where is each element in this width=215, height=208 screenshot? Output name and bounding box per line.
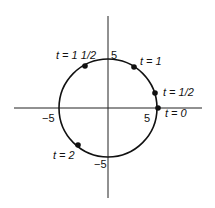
- x-tick-pos5: 5: [144, 112, 150, 124]
- label-t-one-half: t = 1 1/2: [56, 49, 96, 61]
- point-t1: [131, 64, 137, 70]
- diagram-canvas: 5 −5 −5 5 t = 0 t = 1/2 t = 1 t = 1 1/2 …: [0, 0, 215, 208]
- label-t1: t = 1: [140, 55, 162, 67]
- label-t2: t = 2: [53, 149, 75, 161]
- y-tick-neg5: −5: [94, 158, 107, 170]
- point-t0: [155, 105, 161, 111]
- x-tick-neg5: −5: [42, 112, 55, 124]
- label-t-half: t = 1/2: [163, 86, 194, 98]
- y-tick-pos5: 5: [111, 49, 117, 61]
- circle-diagram: 5 −5 −5 5 t = 0 t = 1/2 t = 1 t = 1 1/2 …: [0, 0, 215, 208]
- point-t-one-half: [82, 63, 88, 69]
- label-t0: t = 0: [165, 107, 188, 119]
- point-t2: [75, 142, 81, 148]
- point-t-half: [152, 90, 158, 96]
